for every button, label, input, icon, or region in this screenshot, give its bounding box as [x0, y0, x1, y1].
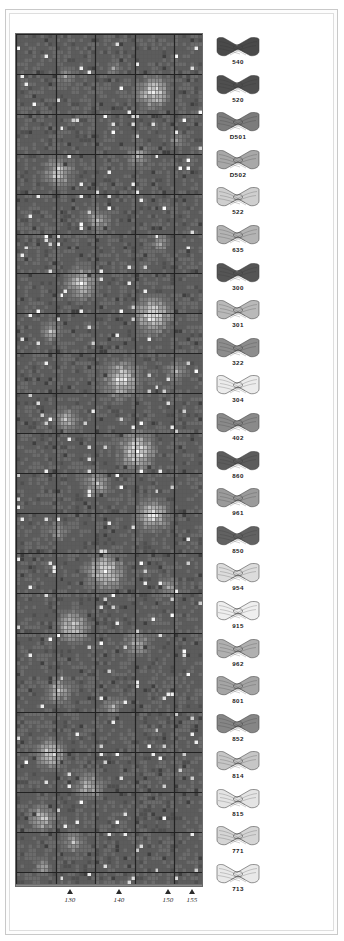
legend-item-962[interactable]: 962: [208, 638, 268, 676]
legend-item-954[interactable]: 954: [208, 562, 268, 600]
legend-item-815[interactable]: 815: [208, 788, 268, 826]
up-arrow-icon: [189, 889, 195, 894]
legend-item-304[interactable]: 304: [208, 374, 268, 412]
thread-code-label: 304: [208, 396, 268, 403]
thread-skein-icon: [215, 224, 261, 246]
thread-skein-icon: [215, 600, 261, 622]
thread-skein-icon: [215, 412, 261, 434]
legend-item-520[interactable]: 520: [208, 74, 268, 112]
thread-code-label: 301: [208, 321, 268, 328]
axis-tick-150: 150: [155, 889, 181, 904]
legend-item-860[interactable]: 860: [208, 450, 268, 488]
legend-item-814[interactable]: 814: [208, 750, 268, 788]
legend-item-301[interactable]: 301: [208, 299, 268, 337]
thread-code-label: 915: [208, 622, 268, 629]
thread-code-label: D501: [208, 133, 268, 140]
thread-skein-icon: [215, 299, 261, 321]
thread-code-label: 540: [208, 58, 268, 65]
thread-skein-icon: [215, 562, 261, 584]
legend-item-915[interactable]: 915: [208, 600, 268, 638]
axis-tick-label: 130: [57, 896, 83, 904]
thread-code-label: 522: [208, 208, 268, 215]
up-arrow-icon: [67, 889, 73, 894]
thread-code-label: 520: [208, 96, 268, 103]
legend-item-322[interactable]: 322: [208, 337, 268, 375]
thread-skein-icon: [215, 525, 261, 547]
thread-code-label: 850: [208, 547, 268, 554]
thread-code-label: 860: [208, 472, 268, 479]
thread-skein-icon: [215, 74, 261, 96]
thread-skein-icon: [215, 487, 261, 509]
thread-skein-icon: [215, 788, 261, 810]
thread-code-label: 962: [208, 660, 268, 667]
chart-x-axis: 130140150155: [15, 889, 203, 919]
legend-item-540[interactable]: 540: [208, 36, 268, 74]
pattern-chart: [15, 33, 203, 887]
thread-code-label: 402: [208, 434, 268, 441]
thread-code-label: 801: [208, 697, 268, 704]
axis-tick-140: 140: [106, 889, 132, 904]
thread-skein-icon: [215, 262, 261, 284]
legend-item-801[interactable]: 801: [208, 675, 268, 713]
thread-skein-icon: [215, 713, 261, 735]
thread-skein-icon: [215, 36, 261, 58]
thread-skein-icon: [215, 675, 261, 697]
thread-skein-icon: [215, 186, 261, 208]
thread-skein-icon: [215, 149, 261, 171]
axis-tick-130: 130: [57, 889, 83, 904]
axis-tick-label: 155: [179, 896, 205, 904]
legend-item-D501[interactable]: D501: [208, 111, 268, 149]
pattern-page: 130140150155 540520D501D5025226353003013…: [0, 0, 344, 941]
legend-item-522[interactable]: 522: [208, 186, 268, 224]
thread-code-label: 815: [208, 810, 268, 817]
thread-code-label: 814: [208, 772, 268, 779]
legend-item-850[interactable]: 850: [208, 525, 268, 563]
up-arrow-icon: [165, 889, 171, 894]
thread-skein-icon: [215, 374, 261, 396]
thread-skein-icon: [215, 825, 261, 847]
thread-code-label: D502: [208, 171, 268, 178]
thread-skein-icon: [215, 450, 261, 472]
legend-item-961[interactable]: 961: [208, 487, 268, 525]
legend-item-771[interactable]: 771: [208, 825, 268, 863]
thread-skein-icon: [215, 638, 261, 660]
thread-code-label: 322: [208, 359, 268, 366]
thread-skein-icon: [215, 750, 261, 772]
thread-code-label: 635: [208, 246, 268, 253]
legend-item-635[interactable]: 635: [208, 224, 268, 262]
legend-item-713[interactable]: 713: [208, 863, 268, 901]
thread-code-label: 300: [208, 284, 268, 291]
thread-skein-icon: [215, 111, 261, 133]
thread-code-label: 961: [208, 509, 268, 516]
thread-code-label: 852: [208, 735, 268, 742]
axis-tick-label: 140: [106, 896, 132, 904]
thread-legend: 540520D501D50252263530030132230440286096…: [208, 36, 268, 901]
legend-item-300[interactable]: 300: [208, 262, 268, 300]
legend-item-402[interactable]: 402: [208, 412, 268, 450]
thread-code-label: 771: [208, 847, 268, 854]
pattern-grid-canvas: [15, 33, 203, 887]
axis-tick-label: 150: [155, 896, 181, 904]
thread-code-label: 713: [208, 885, 268, 892]
up-arrow-icon: [116, 889, 122, 894]
axis-tick-155: 155: [179, 889, 205, 904]
legend-item-D502[interactable]: D502: [208, 149, 268, 187]
thread-skein-icon: [215, 337, 261, 359]
legend-item-852[interactable]: 852: [208, 713, 268, 751]
thread-code-label: 954: [208, 584, 268, 591]
thread-skein-icon: [215, 863, 261, 885]
